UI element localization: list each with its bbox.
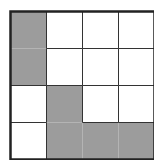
- shaded-cell: [11, 12, 47, 49]
- grid-diagram: [9, 10, 154, 160]
- shaded-cell: [119, 123, 155, 160]
- shaded-cell: [83, 123, 119, 160]
- shaded-cell: [11, 49, 47, 86]
- shaded-cell: [47, 86, 83, 123]
- shaded-cell: [47, 123, 83, 160]
